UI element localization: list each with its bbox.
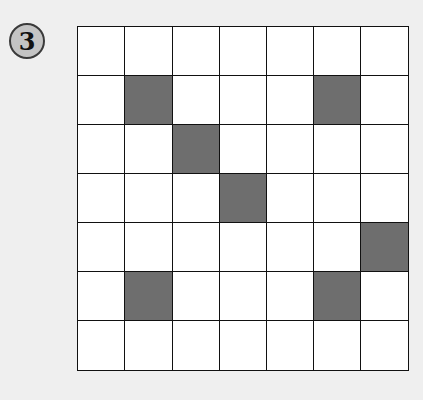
grid-cell — [219, 271, 268, 322]
grid-cell-shaded — [172, 124, 221, 175]
grid-cell — [360, 173, 409, 224]
grid-cell — [313, 320, 362, 371]
grid-cell — [77, 222, 126, 273]
grid-cell — [77, 320, 126, 371]
grid-cell — [313, 173, 362, 224]
grid-cell-shaded — [313, 75, 362, 126]
grid-cell — [77, 75, 126, 126]
grid-cell — [360, 26, 409, 77]
grid-cell — [77, 271, 126, 322]
grid-cell — [172, 26, 221, 77]
grid-cell — [172, 173, 221, 224]
grid-cell — [360, 75, 409, 126]
grid-cell-shaded — [124, 271, 173, 322]
grid-cell — [313, 26, 362, 77]
grid-cell — [266, 124, 315, 175]
grid-cell — [77, 26, 126, 77]
grid-cell — [219, 26, 268, 77]
grid-cell — [124, 173, 173, 224]
grid-cell — [360, 271, 409, 322]
grid-cell — [172, 320, 221, 371]
grid-cell — [266, 271, 315, 322]
grid-cell — [124, 320, 173, 371]
grid-cell — [266, 75, 315, 126]
grid-cell — [172, 75, 221, 126]
grid-cell — [172, 271, 221, 322]
grid-cell — [360, 124, 409, 175]
grid-cell — [266, 26, 315, 77]
grid-cell — [313, 222, 362, 273]
grid-cell-shaded — [124, 75, 173, 126]
shaded-grid — [77, 26, 409, 371]
grid-cell — [77, 173, 126, 224]
grid-cell — [266, 222, 315, 273]
grid-cell-shaded — [313, 271, 362, 322]
grid-cell — [172, 222, 221, 273]
grid-cell — [313, 124, 362, 175]
grid-cell — [124, 26, 173, 77]
grid-cell — [124, 124, 173, 175]
grid-cell — [124, 222, 173, 273]
grid-cell — [266, 320, 315, 371]
grid-cell — [219, 320, 268, 371]
grid-cell — [360, 320, 409, 371]
grid-cell-shaded — [219, 173, 268, 224]
grid-cell — [219, 75, 268, 126]
grid-cell-shaded — [360, 222, 409, 273]
problem-number-badge: 3 — [9, 23, 45, 59]
grid-cell — [266, 173, 315, 224]
grid-cell — [77, 124, 126, 175]
grid-cell — [219, 124, 268, 175]
grid-cell — [219, 222, 268, 273]
